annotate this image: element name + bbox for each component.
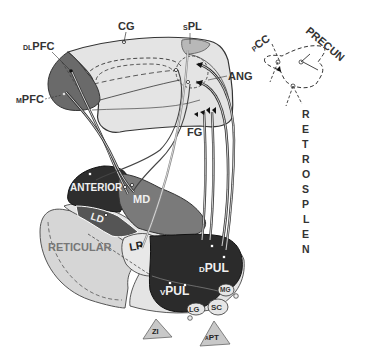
- svg-text:E: E: [302, 228, 309, 240]
- label-cg: CG: [118, 20, 135, 32]
- label-apt: APT: [205, 333, 219, 342]
- svg-text:L: L: [303, 213, 310, 225]
- svg-text:S: S: [302, 183, 309, 195]
- svg-text:R: R: [302, 108, 310, 120]
- label-vpul: VPUL: [160, 284, 189, 298]
- mpfc-terminal: [63, 93, 66, 96]
- label-mg: MG: [220, 286, 230, 293]
- label-mpfc: MPFC: [16, 93, 44, 105]
- svg-text:O: O: [302, 168, 310, 180]
- label-reticular: RETICULAR: [48, 241, 112, 253]
- label-lg: LG: [189, 305, 200, 314]
- label-pcc: PCC: [248, 32, 272, 54]
- thalamocortical-diagram: CG DLPFC MPFC SPL ANG FG PCC PRECUN R E …: [0, 0, 367, 362]
- svg-text:N: N: [302, 243, 310, 255]
- svg-text:E: E: [302, 123, 309, 135]
- medial-inset: [264, 44, 324, 106]
- svg-text:R: R: [302, 153, 310, 165]
- label-fg: FG: [187, 126, 202, 138]
- label-retrosplen: R E T R O S P L E N: [302, 108, 310, 255]
- label-ang: ANG: [228, 70, 252, 82]
- label-md: MD: [133, 193, 150, 205]
- label-precun: PRECUN: [304, 24, 347, 63]
- svg-text:T: T: [302, 138, 309, 150]
- label-dlpfc: DLPFC: [23, 40, 54, 52]
- label-anterior: ANTERIOR: [70, 182, 123, 193]
- label-lp: LP: [128, 239, 144, 253]
- label-spl: SPL: [183, 20, 202, 32]
- label-zi: ZI: [152, 327, 159, 336]
- svg-text:P: P: [302, 198, 309, 210]
- label-sc: SC: [211, 303, 222, 312]
